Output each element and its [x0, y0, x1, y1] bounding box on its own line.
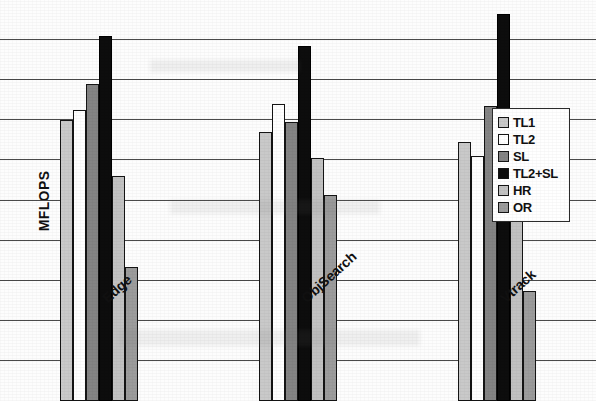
bar-group-objsearch [199, 0, 398, 401]
legend-label: OR [513, 201, 532, 214]
legend-label: HR [513, 184, 531, 197]
bar-vtrack-tl1 [458, 142, 471, 401]
legend-swatch-tl2-icon [498, 134, 509, 145]
bar-group-edge [0, 0, 199, 401]
legend: TL1TL2SLTL2+SLHROR [492, 108, 570, 222]
legend-item-tl1[interactable]: TL1 [498, 114, 565, 131]
bar-vtrack-or [523, 291, 536, 401]
bar-objsearch-or [324, 195, 337, 401]
bar-objsearch-tl1 [259, 132, 272, 401]
bar-vtrack-tl2 [471, 156, 484, 401]
legend-swatch-tl2-sl-icon [498, 168, 509, 179]
bar-edge-tl1 [60, 120, 73, 401]
legend-label: TL2+SL [513, 167, 558, 180]
legend-label: TL1 [513, 116, 535, 129]
legend-swatch-or-icon [498, 202, 509, 213]
bar-objsearch-tl2-sl [298, 46, 311, 401]
legend-item-or[interactable]: OR [498, 199, 565, 216]
legend-label: SL [513, 150, 529, 163]
legend-item-tl2-sl[interactable]: TL2+SL [498, 165, 565, 182]
legend-item-tl2[interactable]: TL2 [498, 131, 565, 148]
legend-swatch-tl1-icon [498, 117, 509, 128]
legend-item-hr[interactable]: HR [498, 182, 565, 199]
bar-objsearch-sl [285, 122, 298, 401]
bar-edge-tl2 [73, 110, 86, 401]
legend-label: TL2 [513, 133, 535, 146]
bar-edge-sl [86, 84, 99, 401]
bar-edge-tl2-sl [99, 36, 112, 401]
legend-swatch-sl-icon [498, 151, 509, 162]
bar-objsearch-tl2 [272, 104, 285, 401]
legend-swatch-hr-icon [498, 185, 509, 196]
bar-chart: MFLOPS 0102030405060708090100 EdgeObjSea… [0, 0, 596, 401]
legend-item-sl[interactable]: SL [498, 148, 565, 165]
